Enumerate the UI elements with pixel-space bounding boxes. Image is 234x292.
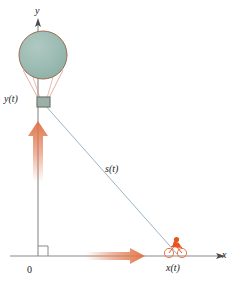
x-axis-label: x xyxy=(222,250,226,260)
balloon-height-label: y(t) xyxy=(4,94,18,104)
cyclist-head xyxy=(174,237,179,242)
distance-line-st xyxy=(44,104,177,254)
cyclist-on-bicycle xyxy=(164,237,186,258)
vertical-velocity-arrow xyxy=(28,121,48,182)
hypotenuse-label: s(t) xyxy=(105,164,118,174)
right-angle-marker xyxy=(38,246,48,256)
horizontal-velocity-arrow xyxy=(86,248,145,264)
y-axis-label: y xyxy=(35,6,39,16)
balloon-basket xyxy=(37,97,50,107)
origin-label: 0 xyxy=(27,265,32,275)
figure-root: y x 0 y(t) x(t) s(t) xyxy=(0,0,234,292)
related-rates-diagram xyxy=(0,0,234,292)
cyclist-distance-label: x(t) xyxy=(166,263,180,273)
balloon-envelope xyxy=(19,31,67,79)
hot-air-balloon xyxy=(19,31,67,107)
